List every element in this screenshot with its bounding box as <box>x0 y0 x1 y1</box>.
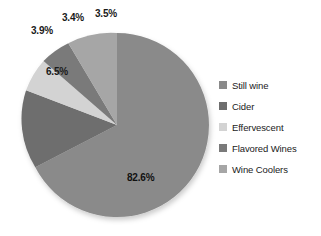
legend-swatch-icon-effervescent <box>219 123 227 131</box>
legend-label-still-wine: Still wine <box>232 80 269 91</box>
legend-swatch-icon-wine-coolers <box>219 165 227 173</box>
legend-label-wine-coolers: Wine Coolers <box>232 164 288 175</box>
data-label-still-wine: 82.6% <box>127 172 154 183</box>
legend-label-flavored-wines: Flavored Wines <box>232 143 297 154</box>
legend-swatch-icon-cider <box>219 102 227 110</box>
pie-chart-figure: 82.6% 6.5% 3.9% 3.4% 3.5% Still wine Cid… <box>0 0 321 236</box>
data-label-flavored-wines: 3.4% <box>62 12 84 23</box>
chart-legend: Still wine Cider Effervescent Flavored W… <box>219 75 319 180</box>
pie-plot-area: 82.6% 6.5% 3.9% 3.4% 3.5% <box>0 0 225 236</box>
legend-swatch-icon-still-wine <box>219 81 227 89</box>
data-label-cider: 6.5% <box>46 66 68 77</box>
data-label-wine-coolers: 3.5% <box>95 8 117 19</box>
legend-label-cider: Cider <box>232 101 254 112</box>
pie-slices-group <box>21 33 208 217</box>
legend-item-still-wine[interactable]: Still wine <box>219 75 319 95</box>
legend-item-effervescent[interactable]: Effervescent <box>219 117 319 137</box>
legend-swatch-icon-flavored-wines <box>219 144 227 152</box>
legend-item-wine-coolers[interactable]: Wine Coolers <box>219 159 319 179</box>
legend-item-cider[interactable]: Cider <box>219 96 319 116</box>
legend-label-effervescent: Effervescent <box>232 122 283 133</box>
legend-item-flavored-wines[interactable]: Flavored Wines <box>219 138 319 158</box>
data-label-effervescent: 3.9% <box>31 25 53 36</box>
